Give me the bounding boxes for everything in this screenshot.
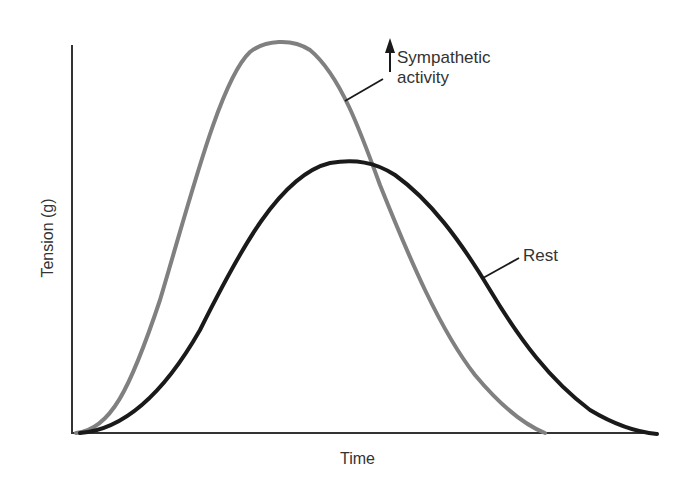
rest-curve bbox=[80, 161, 657, 434]
rest-leader-line bbox=[483, 258, 519, 278]
sympathetic-activity-curve bbox=[76, 42, 545, 433]
y-axis-label: Tension (g) bbox=[39, 198, 57, 277]
sympathetic-label-line1: Sympathetic bbox=[397, 48, 491, 68]
rest-annotation: Rest bbox=[523, 246, 558, 266]
sympathetic-annotation: Sympathetic activity bbox=[397, 48, 491, 88]
sympathetic-leader-line bbox=[345, 79, 383, 101]
up-arrow-icon bbox=[385, 38, 395, 53]
tension-time-chart bbox=[0, 0, 692, 485]
sympathetic-label-line2: activity bbox=[397, 68, 491, 88]
x-axis-label: Time bbox=[340, 449, 375, 469]
